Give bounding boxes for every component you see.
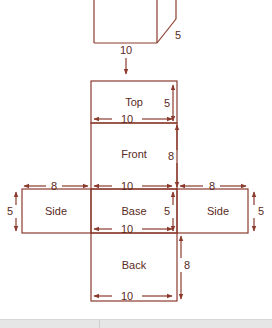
face-label-side-right: Side — [207, 205, 229, 217]
dim-back-height-label: 8 — [184, 259, 190, 271]
dim-back-width-label: 10 — [121, 290, 133, 302]
dim-base-width-bottom-label: 10 — [121, 223, 133, 235]
cube-width-label: 10 — [120, 44, 132, 56]
dim-side-right-width-label: 8 — [209, 180, 215, 192]
cube-depth-label: 5 — [175, 29, 181, 41]
dim-base-height-label: 5 — [164, 205, 170, 217]
bottom-bar — [0, 319, 272, 328]
dim-front-height-label: 8 — [168, 150, 174, 162]
face-label-base: Base — [121, 205, 146, 217]
dim-side-left-width-label: 8 — [51, 180, 57, 192]
cube-drawing — [94, 0, 176, 43]
dim-base-width-top-label: 10 — [121, 180, 133, 192]
dim-top-height-label: 5 — [164, 97, 170, 109]
face-label-top: Top — [125, 96, 143, 108]
face-label-side-left: Side — [45, 205, 67, 217]
face-label-front: Front — [121, 148, 147, 160]
dim-top-width-label: 10 — [121, 113, 133, 125]
dim-side-right-height-label: 5 — [258, 205, 264, 217]
face-label-back: Back — [122, 259, 147, 271]
dim-side-left-height-label: 5 — [7, 205, 13, 217]
bottom-bar-divider — [99, 320, 100, 328]
